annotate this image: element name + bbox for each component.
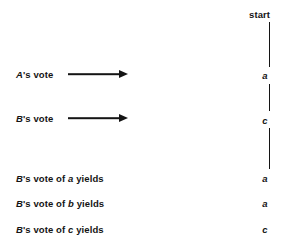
outcome-label-b-vote-of-c: B's vote of c yields: [16, 224, 104, 235]
outcome-2-actor: B: [16, 224, 23, 235]
outcome-0-actor: B: [16, 173, 23, 184]
outcome-1-mid: 's vote of: [23, 198, 68, 209]
outcome-0-mid: 's vote of: [23, 173, 68, 184]
outcome-label-b-vote-of-b: B's vote of b yields: [16, 198, 104, 209]
b-vote-suffix: 's vote: [23, 113, 53, 124]
outcome-2-suffix: yields: [73, 224, 103, 235]
outcome-0-suffix: yields: [73, 173, 103, 184]
b-vote-actor: B: [16, 113, 23, 124]
a-vote-arrow-shaft: [68, 73, 121, 75]
b-vote-arrow: [68, 113, 128, 123]
timeline-state-a: a: [262, 70, 267, 81]
b-vote-arrow-shaft: [68, 117, 121, 119]
a-vote-arrow: [68, 69, 128, 79]
outcome-result-b-vote-of-c: c: [262, 224, 267, 235]
timeline-segment-c-to-end: [269, 128, 270, 169]
timeline-segment-start-to-a: [269, 22, 270, 67]
start-label: start: [249, 9, 270, 20]
outcome-1-actor: B: [16, 198, 23, 209]
outcome-1-suffix: yields: [74, 198, 104, 209]
b-vote-arrow-head: [119, 114, 128, 122]
a-vote-label: A's vote: [16, 69, 53, 80]
outcome-label-b-vote-of-a: B's vote of a yields: [16, 173, 104, 184]
timeline-segment-a-to-c: [269, 84, 270, 111]
outcome-result-b-vote-of-a: a: [262, 173, 267, 184]
b-vote-label: B's vote: [16, 113, 53, 124]
outcome-2-mid: 's vote of: [23, 224, 68, 235]
a-vote-suffix: 's vote: [23, 69, 53, 80]
voting-timeline-figure: start a c A's vote B's vote B's vote of …: [0, 0, 298, 249]
a-vote-actor: A: [16, 69, 23, 80]
timeline-state-c: c: [262, 115, 267, 126]
outcome-result-b-vote-of-b: a: [262, 198, 267, 209]
a-vote-arrow-head: [119, 70, 128, 78]
